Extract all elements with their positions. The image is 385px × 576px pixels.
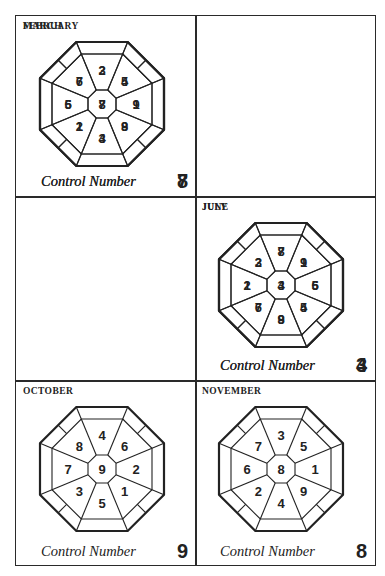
cell-northeast: 4 bbox=[121, 74, 129, 89]
cell-southwest: 2 bbox=[255, 484, 262, 499]
cell-center: 3 bbox=[277, 278, 284, 293]
cell-east: 2 bbox=[132, 462, 139, 477]
cell-northwest: 6 bbox=[76, 74, 83, 89]
octagon-diagram: 2 4 9 8 3 1 5 6 7 bbox=[37, 37, 167, 171]
month-chart-march: MARCH 2 4 9 8 3 1 5 6 7 Control Number bbox=[15, 15, 194, 196]
cell-north: 2 bbox=[98, 63, 105, 78]
cell-west: 5 bbox=[64, 97, 71, 112]
control-number-value: 8 bbox=[356, 540, 367, 563]
cell-north: 3 bbox=[277, 428, 284, 443]
cell-center: 8 bbox=[277, 462, 284, 477]
cell-east: 1 bbox=[311, 462, 318, 477]
cell-south: 5 bbox=[98, 496, 105, 511]
cell-southeast: 9 bbox=[300, 484, 307, 499]
cell-southwest: 1 bbox=[76, 119, 83, 134]
cell-southwest: 6 bbox=[255, 300, 262, 315]
month-chart-october: OCTOBER 4 6 2 1 5 3 7 8 9 Control Numb bbox=[15, 380, 194, 566]
cell-west: 6 bbox=[243, 462, 250, 477]
control-number-label: Control Number bbox=[220, 357, 315, 374]
month-label: NOVEMBER bbox=[202, 386, 261, 396]
control-number-value: 7 bbox=[177, 170, 188, 193]
cell-northwest: 7 bbox=[255, 439, 262, 454]
control-number-value: 3 bbox=[356, 354, 367, 377]
cell-north: 4 bbox=[98, 428, 106, 443]
octagon-chart: 7 9 5 4 8 6 1 2 3 bbox=[216, 218, 346, 352]
month-label: OCTOBER bbox=[23, 386, 73, 396]
cell-southeast: 1 bbox=[121, 484, 128, 499]
month-chart-july: JULY 7 9 5 4 8 6 1 2 3 Control Number bbox=[194, 196, 373, 380]
control-number-value: 9 bbox=[177, 540, 188, 563]
cell-northeast: 9 bbox=[300, 255, 307, 270]
cell-northeast: 5 bbox=[300, 439, 307, 454]
octagon-chart: 4 6 2 1 5 3 7 8 9 bbox=[37, 402, 167, 536]
cell-southeast: 4 bbox=[300, 300, 308, 315]
octagon-diagram: 4 6 2 1 5 3 7 8 9 bbox=[37, 402, 167, 536]
cell-west: 1 bbox=[243, 278, 250, 293]
control-number-label: Control Number bbox=[41, 543, 136, 560]
octagon-chart: 2 4 9 8 3 1 5 6 7 bbox=[37, 37, 167, 171]
octagon-chart: 3 5 1 9 4 2 6 7 8 bbox=[216, 402, 346, 536]
control-number-label: Control Number bbox=[41, 173, 136, 190]
cell-southeast: 8 bbox=[121, 119, 128, 134]
cell-east: 9 bbox=[132, 97, 139, 112]
cell-south: 3 bbox=[98, 131, 105, 146]
octagon-diagram: 3 5 1 9 4 2 6 7 8 bbox=[216, 402, 346, 536]
cell-northwest: 2 bbox=[255, 255, 262, 270]
cell-west: 7 bbox=[64, 462, 71, 477]
month-label: MARCH bbox=[23, 21, 62, 31]
cell-center: 7 bbox=[98, 97, 105, 112]
cell-southwest: 3 bbox=[76, 484, 83, 499]
cell-south: 8 bbox=[277, 312, 284, 327]
month-chart-november: NOVEMBER 3 5 1 9 4 2 6 7 8 Control Num bbox=[194, 380, 373, 566]
control-number-label: Control Number bbox=[220, 543, 315, 560]
cell-northeast: 6 bbox=[121, 439, 128, 454]
cell-south: 4 bbox=[277, 496, 285, 511]
cell-north: 7 bbox=[277, 244, 284, 259]
cell-center: 9 bbox=[98, 462, 105, 477]
month-label: JULY bbox=[202, 202, 228, 212]
octagon-diagram: 7 9 5 4 8 6 1 2 3 bbox=[216, 218, 346, 352]
cell-east: 5 bbox=[311, 278, 318, 293]
cell-northwest: 8 bbox=[76, 439, 83, 454]
